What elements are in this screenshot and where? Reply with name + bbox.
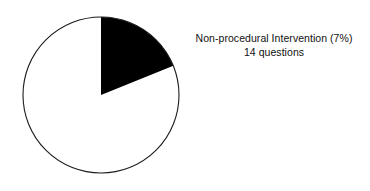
slice-annotation-label: Non-procedural Intervention (7%): [185, 31, 363, 45]
slice-annotation-count: 14 questions: [185, 45, 363, 59]
pie-chart-canvas: [0, 0, 370, 191]
slice-annotation: Non-procedural Intervention (7%) 14 ques…: [185, 31, 363, 59]
pie-chart-figure: Non-procedural Intervention (7%) 14 ques…: [0, 0, 370, 191]
